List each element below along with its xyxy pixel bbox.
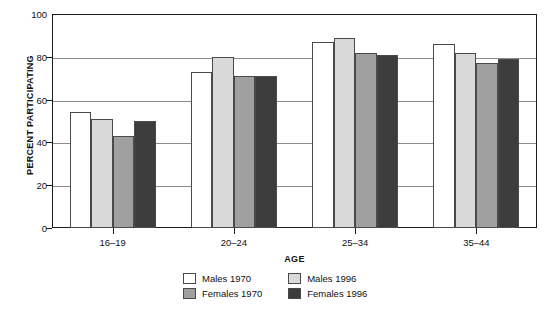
x-tick-label-20-24: 20–24 [221, 237, 247, 248]
x-tick-mark-2 [355, 228, 356, 234]
legend-swatch-icon [183, 273, 196, 284]
legend-item-males-1996: Males 1996 [288, 273, 367, 284]
legend-item-males-1970: Males 1970 [183, 273, 262, 284]
bar-females-1996-16-19 [134, 121, 156, 228]
bar-chart: PERCENT PARTICIPATING 020406080100 16–19… [0, 0, 553, 314]
legend-swatch-icon [288, 288, 301, 299]
legend-item-females-1996: Females 1996 [288, 288, 367, 299]
bar-females-1970-16-19 [113, 136, 135, 228]
bar-females-1970-35-44 [476, 63, 498, 228]
legend-swatch-icon [183, 288, 196, 299]
x-tick-mark-3 [476, 228, 477, 234]
bar-females-1970-25-34 [355, 53, 377, 228]
bar-males-1970-16-19 [70, 112, 92, 228]
bar-males-1970-35-44 [433, 44, 455, 228]
x-tick-label-25-34: 25–34 [342, 237, 368, 248]
x-tick-mark-0 [113, 228, 114, 234]
chart-legend: Males 1970Males 1996Females 1970Females … [183, 273, 367, 299]
bar-males-1996-25-34 [334, 38, 356, 228]
legend-label: Males 1996 [307, 273, 356, 284]
bar-males-1996-20-24 [212, 57, 234, 228]
y-axis-ticks: 020406080100 [0, 14, 52, 228]
legend-item-females-1970: Females 1970 [183, 288, 262, 299]
bar-females-1996-35-44 [498, 59, 520, 228]
y-tick-label-100: 100 [6, 9, 52, 20]
bar-males-1970-20-24 [191, 72, 213, 228]
bar-males-1996-16-19 [91, 119, 113, 228]
x-axis-title: AGE [52, 254, 537, 264]
x-tick-label-16-19: 16–19 [99, 237, 125, 248]
legend-swatch-icon [288, 273, 301, 284]
bar-females-1970-20-24 [234, 76, 256, 228]
x-tick-mark-1 [234, 228, 235, 234]
x-tick-label-35-44: 35–44 [463, 237, 489, 248]
legend-label: Males 1970 [202, 273, 251, 284]
y-tick-mark-0 [46, 228, 52, 229]
legend-label: Females 1996 [307, 288, 367, 299]
legend-label: Females 1970 [202, 288, 262, 299]
bar-females-1996-20-24 [255, 76, 277, 228]
bar-females-1996-25-34 [377, 55, 399, 228]
bar-males-1996-35-44 [455, 53, 477, 228]
bars-layer [52, 14, 537, 228]
bar-males-1970-25-34 [312, 42, 334, 228]
